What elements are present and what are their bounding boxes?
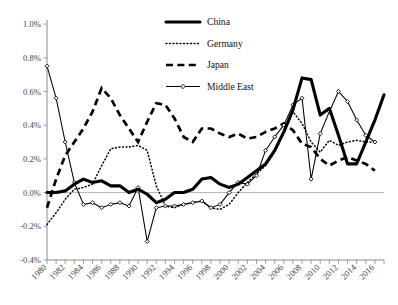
data-point-marker xyxy=(109,202,113,206)
data-point-marker xyxy=(81,202,85,206)
data-point-marker xyxy=(63,140,67,144)
data-point-marker xyxy=(145,239,149,243)
data-point-marker xyxy=(45,64,49,68)
legend-item-japan: Japan xyxy=(166,59,229,70)
data-point-marker xyxy=(309,177,313,181)
x-axis: 1980198219841986198819901992199419961998… xyxy=(29,260,384,282)
y-tick-label: 0.6% xyxy=(23,87,41,97)
y-axis: 1.0%0.8%0.6%0.4%0.2%0.0%-0.2%-0.4% xyxy=(20,19,47,265)
x-tick-label: 2016 xyxy=(357,262,377,282)
data-point-marker xyxy=(91,201,95,205)
series-line xyxy=(47,78,384,203)
series-china xyxy=(47,78,384,203)
line-chart: 1.0%0.8%0.6%0.4%0.2%0.0%-0.2%-0.4% 19801… xyxy=(0,0,398,305)
data-point-marker xyxy=(154,206,158,210)
x-tick-label: 1988 xyxy=(102,262,121,281)
data-point-marker xyxy=(318,132,322,136)
x-tick-label: 1992 xyxy=(138,262,157,281)
data-point-marker xyxy=(127,204,131,208)
x-tick-label: 1982 xyxy=(47,262,66,281)
x-tick-label: 1986 xyxy=(84,262,104,282)
legend-marker xyxy=(181,84,185,88)
data-point-marker xyxy=(100,206,104,210)
x-tick-label: 2014 xyxy=(339,262,359,282)
x-tick-label: 1994 xyxy=(157,262,177,282)
data-point-marker xyxy=(163,204,167,208)
y-tick-label: -0.4% xyxy=(20,255,41,265)
data-point-marker xyxy=(182,202,186,206)
data-point-marker xyxy=(191,201,195,205)
legend-item-germany: Germany xyxy=(166,38,243,49)
chart-canvas: 1.0%0.8%0.6%0.4%0.2%0.0%-0.2%-0.4% 19801… xyxy=(0,0,398,305)
x-tick-label: 2006 xyxy=(266,262,286,282)
series-line xyxy=(47,88,375,208)
x-tick-label: 1984 xyxy=(66,262,86,282)
y-tick-label: -0.2% xyxy=(20,221,41,231)
legend-label: China xyxy=(207,16,231,27)
x-tick-label: 2000 xyxy=(211,262,230,281)
x-tick-label: 1996 xyxy=(175,262,195,282)
legend-item-china: China xyxy=(166,16,231,27)
legend-label: Japan xyxy=(207,59,229,70)
chart-legend: ChinaGermanyJapanMiddle East xyxy=(166,16,254,92)
y-tick-label: 1.0% xyxy=(23,19,41,29)
x-tick-label: 1990 xyxy=(120,262,139,281)
legend-item-middle-east: Middle East xyxy=(166,81,254,92)
series-japan xyxy=(47,88,375,208)
y-tick-label: 0.0% xyxy=(23,188,41,198)
data-point-marker xyxy=(54,96,58,100)
x-tick-label: 1998 xyxy=(193,262,212,281)
legend-label: Germany xyxy=(207,38,243,49)
x-tick-label: 2004 xyxy=(248,262,268,282)
x-tick-label: 2008 xyxy=(284,262,303,281)
x-tick-label: 2010 xyxy=(302,262,321,281)
y-tick-label: 0.8% xyxy=(23,53,41,63)
data-point-marker xyxy=(118,201,122,205)
series-line xyxy=(47,66,375,241)
legend-label: Middle East xyxy=(207,81,254,92)
y-tick-label: 0.2% xyxy=(23,154,41,164)
x-tick-label: 1980 xyxy=(29,262,48,281)
x-tick-label: 2012 xyxy=(321,262,340,281)
y-tick-label: 0.4% xyxy=(23,120,41,130)
x-tick-label: 2002 xyxy=(230,262,249,281)
